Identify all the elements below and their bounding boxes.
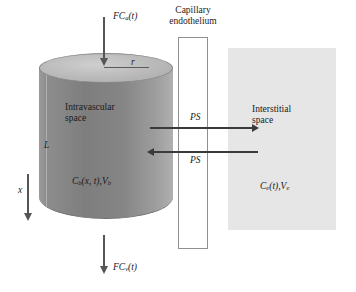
inflow-arrow-shaft xyxy=(103,17,105,62)
capillary-endothelium-membrane xyxy=(178,37,208,249)
ps-influx-label: PS xyxy=(190,112,201,123)
intravascular-space-label: Intravascularspace xyxy=(65,102,115,124)
x-axis-arrowhead-icon xyxy=(24,213,32,221)
length-label: L xyxy=(44,140,49,151)
ps-efflux-arrowhead-icon xyxy=(147,148,154,156)
capillary-exchange-diagram: FCa(t) FCv(t) Capillaryendothelium r L x… xyxy=(0,0,356,292)
ps-efflux-label: PS xyxy=(190,155,201,166)
interstitial-space-block xyxy=(228,48,336,230)
ps-influx-arrow-shaft xyxy=(150,127,256,129)
ps-efflux-arrow-shaft xyxy=(150,151,258,153)
x-axis-arrow-shaft xyxy=(27,174,29,218)
ees-concentration-label: Ce(t),Ve xyxy=(260,181,289,193)
radius-label: r xyxy=(131,57,135,68)
interstitial-space-label: Interstitialspace xyxy=(252,104,291,126)
outflow-arrowhead-icon xyxy=(100,266,108,274)
radius-line xyxy=(104,67,149,68)
x-axis-label: x xyxy=(18,185,22,196)
cylinder-body xyxy=(39,67,173,219)
capillary-cylinder xyxy=(39,53,173,233)
venous-outflow-label: FCv(t) xyxy=(113,262,137,274)
inflow-arrowhead-icon xyxy=(100,58,108,66)
arterial-inflow-label: FCa(t) xyxy=(113,11,137,23)
capillary-endothelium-label: Capillaryendothelium xyxy=(154,5,232,27)
blood-concentration-label: Cb(x, t),Vb xyxy=(72,176,111,188)
